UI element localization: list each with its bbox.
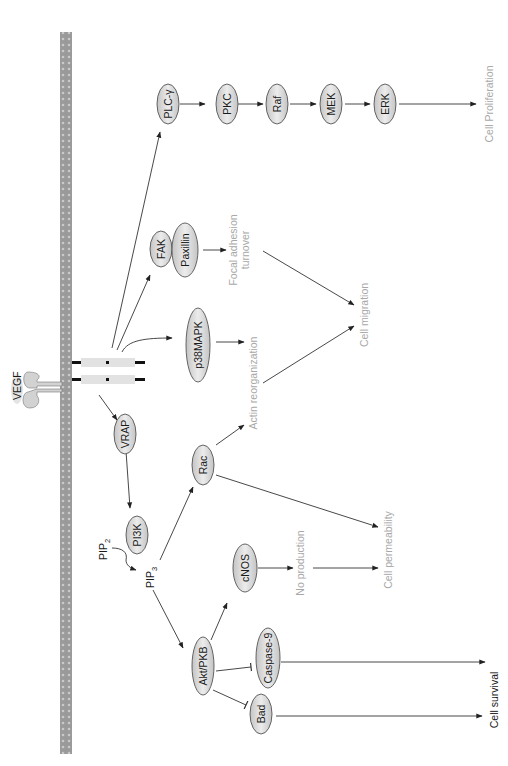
outcome-cell-migration: Cell migration: [358, 283, 370, 347]
node-bad: Bad: [250, 694, 272, 734]
pi3k-label: PI3K: [131, 524, 143, 547]
outcome-focal-adhesion-line1: Focal adhesion: [227, 214, 239, 285]
outcome-focal-adhesion-line2: turnover: [239, 230, 251, 269]
node-pi3k: PI3K: [126, 516, 148, 554]
node-plc-gamma: PLC-γ: [157, 84, 179, 124]
node-raf: Raf: [266, 84, 288, 124]
pkc-label: PKC: [221, 93, 233, 115]
raf-label: Raf: [271, 96, 283, 112]
outcome-cell-proliferation: Cell Proliferation: [483, 65, 495, 142]
p38mapk-label: p38MAPK: [192, 321, 204, 368]
pip2-label: PIP2: [97, 539, 112, 560]
node-mek: MEK: [320, 84, 342, 124]
outcome-cell-permeability: Cell permeability: [382, 510, 394, 588]
mek-label: MEK: [325, 93, 337, 116]
node-caspase-9: Caspase-9: [256, 628, 280, 688]
vrap-label: VRAP: [119, 420, 131, 449]
pip2-subscript: 2: [103, 539, 112, 543]
node-erk: ERK: [374, 84, 396, 124]
node-paxillin: Paxillin: [172, 223, 198, 277]
node-akt-pkb: Akt/PKB: [192, 637, 214, 695]
svg-text:PIP2: PIP2: [97, 539, 112, 560]
paxillin-label: Paxillin: [179, 233, 191, 266]
erk-label: ERK: [379, 93, 391, 115]
outcome-no-production: No production: [294, 530, 306, 596]
plc-gamma-label: PLC-γ: [162, 89, 174, 119]
akt-pkb-label: Akt/PKB: [197, 646, 209, 685]
outcome-cell-survival: Cell survival: [488, 672, 500, 729]
pip3-subscript: 3: [150, 567, 159, 571]
vegf-receptor: [72, 358, 145, 384]
rac-label: Rac: [197, 456, 209, 475]
vegf-ligand: VEGF: [11, 371, 62, 408]
node-cnos: cNOS: [233, 544, 257, 592]
svg-text:PIP3: PIP3: [144, 567, 159, 588]
vegf-label: VEGF: [11, 371, 23, 400]
cell-membrane: [60, 32, 72, 754]
pip3-label: PIP3: [144, 567, 159, 588]
pip3-base: PIP: [144, 571, 156, 588]
fak-label: FAK: [155, 239, 167, 259]
cnos-label: cNOS: [239, 554, 251, 582]
node-p38mapk: p38MAPK: [186, 308, 210, 382]
node-vrap: VRAP: [114, 414, 136, 454]
caspase-9-label: Caspase-9: [262, 632, 274, 683]
edges: [99, 104, 485, 716]
node-pkc: PKC: [216, 84, 238, 124]
outcome-actin-reorganization: Actin reorganization: [247, 336, 259, 429]
vegf-signaling-diagram: VEGF: [0, 0, 508, 766]
bad-label: Bad: [255, 705, 267, 724]
node-rac: Rac: [192, 445, 214, 485]
node-fak: FAK: [150, 231, 172, 267]
pip2-base: PIP: [97, 543, 109, 560]
